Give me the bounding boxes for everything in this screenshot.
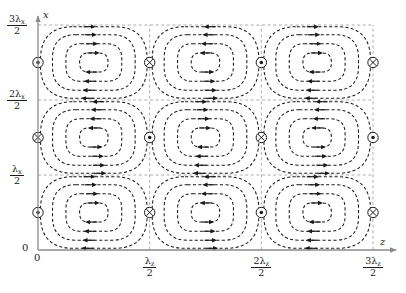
z-axis-name: z	[380, 237, 385, 247]
axis-lines	[38, 16, 396, 250]
z-tick-label-2: 2λz2	[244, 256, 278, 278]
x-tick-label-0: 0	[22, 243, 28, 254]
z-tick-label-3: 3λz2	[356, 256, 390, 278]
z-tick-label-1: λz2	[133, 256, 167, 278]
grid-lines	[38, 25, 373, 250]
z-tick-label-0: 0	[34, 253, 40, 264]
x-axis-name: x	[43, 10, 49, 20]
direction-arrows	[84, 27, 328, 249]
streamline-contours	[41, 27, 371, 249]
streamline-plot	[0, 0, 406, 293]
figure-root: 3λx2 2λx2 λx2 0 0 λz2 2λz2 3λz2 x z	[0, 0, 406, 293]
x-tick-label-3: 3λx2	[0, 14, 34, 36]
x-tick-label-2: 2λx2	[0, 89, 34, 111]
x-tick-label-1: λx2	[0, 164, 34, 186]
